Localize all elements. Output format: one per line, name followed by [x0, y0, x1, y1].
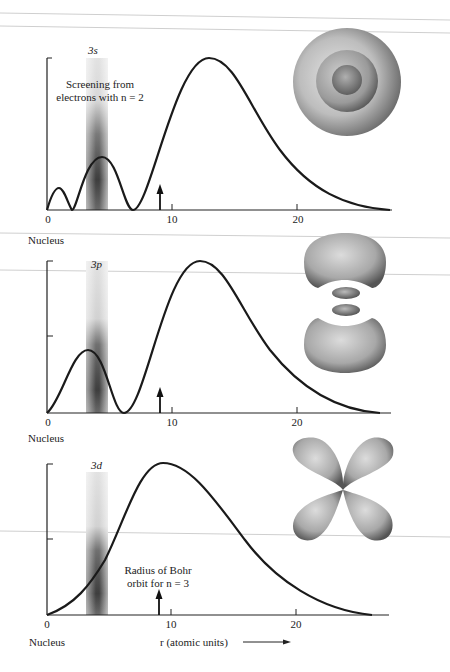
y-axis [47, 58, 52, 210]
y-axis [47, 261, 53, 413]
orbital-3s-sphere [293, 28, 401, 136]
bohr-annotation-line1: Radius of Bohr [118, 564, 198, 576]
screening-annotation-line2: electrons with n = 2 [50, 91, 150, 103]
bohr-annotation-line2: orbit for n = 3 [118, 577, 198, 589]
orbital-label-3s: 3s [88, 44, 98, 56]
orbital-label-3d: 3d [91, 459, 102, 471]
nucleus-label: Nucleus [28, 234, 64, 246]
x-tick-10: 10 [167, 416, 178, 428]
bohr-radius-arrow [157, 387, 164, 413]
x-tick-0: 0 [45, 416, 51, 428]
x-tick-20: 20 [293, 213, 304, 225]
bohr-radius-arrow [157, 184, 164, 210]
orbital-label-3p: 3p [91, 258, 102, 270]
x-tick-10: 10 [167, 213, 178, 225]
x-tick-0: 0 [45, 213, 51, 225]
bohr-radius-arrow [156, 589, 163, 615]
x-tick-20: 20 [292, 416, 303, 428]
panel-3s [47, 28, 401, 210]
orbital-3d-cloverleaf [293, 438, 394, 541]
x-axis-label: r (atomic units) [160, 636, 228, 648]
screening-annotation-line1: Screening from [60, 78, 140, 90]
nucleus-label: Nucleus [28, 432, 64, 444]
orbital-3p-lobes [304, 233, 386, 373]
x-tick-0: 0 [44, 618, 50, 630]
nucleus-label: Nucleus [29, 636, 65, 648]
x-direction-arrow [243, 640, 291, 645]
y-axis [47, 464, 53, 615]
x-tick-10: 10 [166, 618, 177, 630]
x-tick-20: 20 [291, 618, 302, 630]
radial-distribution-figure: 3s Screening from electrons with n = 2 0… [0, 0, 450, 672]
